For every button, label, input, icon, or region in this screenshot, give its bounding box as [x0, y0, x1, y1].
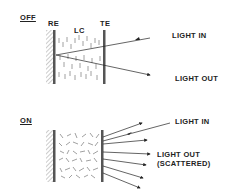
transparent-electrode — [101, 130, 104, 182]
off-cell — [46, 30, 150, 84]
off-light-out-label: LIGHT OUT — [175, 75, 218, 83]
off-state-label: OFF — [20, 14, 36, 22]
random-lc-molecules — [59, 133, 99, 178]
re-label: RE — [48, 20, 59, 28]
reflector-hatch — [46, 130, 53, 182]
lc-label: LC — [74, 27, 85, 35]
on-light-in-label: LIGHT IN — [175, 118, 209, 126]
aligned-lc-molecules — [59, 35, 100, 80]
off-light-in-label: LIGHT IN — [172, 32, 206, 40]
reflective-electrode — [53, 30, 56, 84]
reflector-hatch — [46, 30, 53, 84]
reflective-electrode — [53, 130, 56, 182]
arrow-head-icon — [135, 37, 140, 40]
on-scattered-label: (SCATTERED) — [157, 160, 211, 168]
on-state-label: ON — [20, 117, 32, 125]
transparent-electrode — [103, 30, 106, 84]
on-cell — [46, 123, 170, 188]
te-label: TE — [100, 20, 110, 28]
on-light-out-label: LIGHT OUT — [157, 151, 200, 159]
